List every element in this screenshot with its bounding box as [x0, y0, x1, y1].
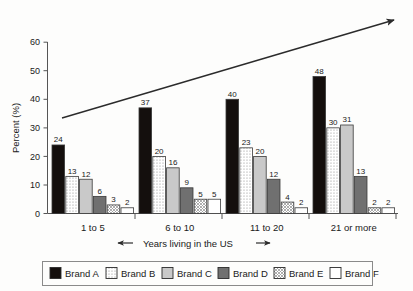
- bar: [341, 125, 354, 214]
- y-tick-label-30: 30: [30, 123, 40, 133]
- bar-value-label: 2: [299, 198, 304, 207]
- legend-label[interactable]: Brand B: [121, 268, 155, 279]
- legend-swatch[interactable]: [50, 268, 61, 279]
- bar: [180, 188, 193, 214]
- bar: [194, 199, 207, 213]
- x-category-label: 1 to 5: [81, 222, 105, 233]
- bar-value-label: 23: [242, 138, 251, 147]
- bar-value-label: 12: [269, 170, 278, 179]
- bar: [80, 179, 93, 213]
- bar-value-label: 37: [141, 98, 150, 107]
- bar: [327, 128, 340, 214]
- y-tick-labels: 0 10 20 30 40 50 60: [30, 37, 40, 218]
- bar-value-label: 2: [372, 198, 377, 207]
- legend-swatch[interactable]: [162, 268, 173, 279]
- bar: [281, 202, 294, 213]
- legend-swatch[interactable]: [218, 268, 229, 279]
- bar-value-label: 40: [228, 90, 237, 99]
- bar-value-label: 24: [54, 135, 63, 144]
- legend-label[interactable]: Brand A: [65, 268, 99, 279]
- bar: [354, 176, 367, 213]
- y-axis-title: Percent (%): [10, 103, 21, 153]
- bar-value-label: 48: [315, 67, 324, 76]
- bar-value-label: 5: [212, 190, 217, 199]
- y-tick-label-10: 10: [30, 180, 40, 190]
- legend-swatch[interactable]: [274, 268, 285, 279]
- bar: [240, 148, 253, 214]
- bar-value-label: 20: [155, 147, 164, 156]
- bar: [208, 199, 221, 213]
- bar: [167, 168, 180, 214]
- bar-value-label: 2: [386, 198, 391, 207]
- x-axis-title-group: Years living in the US: [118, 238, 270, 249]
- y-tick-label-50: 50: [30, 66, 40, 76]
- bar: [254, 156, 267, 213]
- x-category-label: 11 to 20: [250, 222, 284, 233]
- bar-value-label: 20: [255, 147, 264, 156]
- bar: [66, 176, 79, 213]
- bar-value-label: 31: [342, 115, 351, 124]
- bar-value-label: 13: [356, 167, 365, 176]
- bar: [382, 208, 395, 214]
- bar: [121, 208, 134, 214]
- x-category-label: 21 or more: [331, 222, 377, 233]
- y-tick-label-60: 60: [30, 37, 40, 47]
- bar-chart-figure: 0 10 20 30 40 50 60 Percent (%) 24131263…: [0, 0, 413, 291]
- legend-label[interactable]: Brand C: [177, 268, 212, 279]
- bar-value-label: 4: [285, 193, 290, 202]
- bar-value-label: 13: [68, 167, 77, 176]
- bar: [107, 205, 120, 214]
- bar-value-label: 9: [184, 178, 189, 187]
- legend-label[interactable]: Brand F: [345, 268, 379, 279]
- x-category-label: 6 to 10: [165, 222, 194, 233]
- category-labels-layer: 1 to 56 to 1011 to 2021 or more: [81, 222, 377, 233]
- bar: [295, 208, 308, 214]
- plot-area: 0 10 20 30 40 50 60 Percent (%) 24131263…: [10, 20, 398, 233]
- bar-value-label: 30: [329, 118, 338, 127]
- bars-layer: [52, 76, 395, 213]
- bar: [153, 156, 166, 213]
- legend: Brand ABrand BBrand CBrand DBrand EBrand…: [43, 262, 379, 286]
- bar: [226, 99, 239, 213]
- legend-swatch[interactable]: [106, 268, 117, 279]
- bar: [368, 208, 381, 214]
- bar-value-label: 16: [168, 158, 177, 167]
- x-axis-group-ticks: [135, 214, 396, 220]
- legend-swatch[interactable]: [330, 268, 341, 279]
- bar-value-label: 12: [81, 170, 90, 179]
- bar: [52, 145, 65, 214]
- y-tick-label-20: 20: [30, 152, 40, 162]
- bar-value-label: 5: [198, 190, 203, 199]
- bar: [93, 196, 106, 213]
- bar-value-label: 3: [111, 195, 116, 204]
- legend-label[interactable]: Brand D: [233, 268, 268, 279]
- bar-value-label: 6: [97, 187, 102, 196]
- y-tick-label-0: 0: [35, 209, 40, 219]
- bar: [313, 76, 326, 213]
- legend-label[interactable]: Brand E: [289, 268, 323, 279]
- chart-svg: 0 10 20 30 40 50 60 Percent (%) 24131263…: [0, 0, 413, 291]
- bar: [267, 179, 280, 213]
- y-tick-label-40: 40: [30, 94, 40, 104]
- x-axis-title: Years living in the US: [143, 238, 233, 249]
- y-axis-ticks: [44, 42, 48, 213]
- bar-value-label: 2: [125, 198, 130, 207]
- bar: [139, 108, 152, 214]
